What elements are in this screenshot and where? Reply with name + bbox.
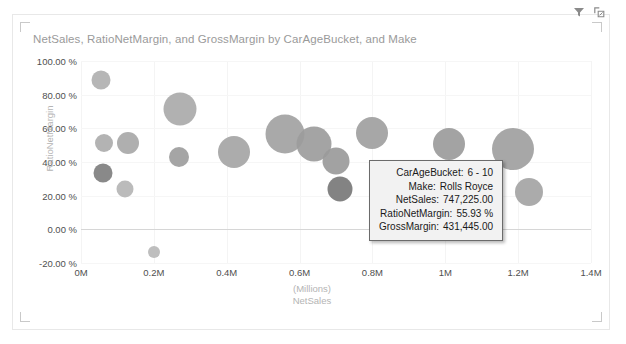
tooltip-row: GrossMargin:431,445.00 — [379, 220, 493, 234]
data-bubble[interactable] — [92, 71, 111, 90]
x-axis-tick-label: 1.4M — [580, 267, 601, 278]
data-bubble[interactable] — [117, 132, 139, 154]
y-axis-tick-label: 0.00 % — [47, 224, 77, 235]
tooltip-row: Make:Rolls Royce — [379, 180, 493, 194]
tooltip-row: NetSales:747,225.00 — [379, 193, 493, 207]
y-axis-tick-label: 100.00 % — [37, 56, 77, 67]
tooltip-value: 431,445.00 — [443, 220, 493, 234]
tooltip-label: RatioNetMargin: — [380, 207, 452, 221]
screenshot-root: NetSales, RatioNetMargin, and GrossMargi… — [0, 0, 626, 344]
zero-line — [81, 229, 591, 230]
tooltip-label: CarAgeBucket: — [396, 166, 463, 180]
x-axis-tick-label: 0.4M — [216, 267, 237, 278]
plot-frame: 100.00 %80.00 %60.00 %40.00 %20.00 %0.00… — [13, 15, 611, 331]
data-bubble[interactable] — [328, 177, 353, 202]
tooltip-value: 6 - 10 — [468, 166, 494, 180]
bubble-chart-visual[interactable]: NetSales, RatioNetMargin, and GrossMargi… — [12, 14, 610, 330]
tooltip-value: 747,225.00 — [443, 193, 493, 207]
visual-header-icons — [572, 5, 605, 18]
gridline-vertical — [591, 61, 592, 263]
gridline-horizontal — [81, 61, 591, 62]
data-bubble[interactable] — [515, 178, 543, 206]
plot-area[interactable] — [81, 61, 591, 263]
tooltip-value: 55.93 % — [456, 207, 493, 221]
gridline-horizontal — [81, 95, 591, 96]
gridline-horizontal — [81, 263, 591, 264]
data-bubble[interactable] — [164, 92, 197, 125]
data-bubble[interactable] — [169, 147, 189, 167]
x-axis-tick-label: 1M — [439, 267, 452, 278]
y-axis-tick-label: 20.00 % — [42, 190, 77, 201]
tooltip-label: GrossMargin: — [379, 220, 439, 234]
data-bubble[interactable] — [218, 136, 250, 168]
tooltip-label: Make: — [408, 180, 435, 194]
y-axis-tick-label: -20.00 % — [39, 258, 77, 269]
x-axis-tick-label: 0.6M — [289, 267, 310, 278]
data-bubble[interactable] — [148, 246, 160, 258]
x-axis-ticks: 0M0.2M0.4M0.6M0.8M1M1.2M1.4M — [81, 267, 591, 281]
x-axis-tick-label: 0M — [74, 267, 87, 278]
tooltip-label: NetSales: — [396, 193, 439, 207]
x-axis-title: (Millions) NetSales — [13, 283, 611, 306]
y-axis-title: RatioNetMargin — [44, 94, 55, 184]
x-axis-tick-label: 0.2M — [143, 267, 164, 278]
x-axis-unit: (Millions) — [13, 283, 611, 295]
x-axis-tick-label: 1.2M — [508, 267, 529, 278]
tooltip-row: RatioNetMargin:55.93 % — [379, 207, 493, 221]
x-axis-field: NetSales — [13, 295, 611, 307]
tooltip-row: CarAgeBucket:6 - 10 — [379, 166, 493, 180]
tooltip-value: Rolls Royce — [440, 180, 493, 194]
data-bubble[interactable] — [433, 128, 465, 160]
data-bubble[interactable] — [95, 134, 113, 152]
filter-icon[interactable] — [572, 5, 585, 18]
data-point-tooltip: CarAgeBucket:6 - 10Make:Rolls RoyceNetSa… — [369, 160, 503, 241]
data-bubble[interactable] — [356, 117, 388, 149]
data-bubble[interactable] — [116, 181, 133, 198]
data-bubble[interactable] — [93, 163, 112, 182]
focus-mode-icon[interactable] — [592, 5, 605, 18]
data-bubble[interactable] — [323, 148, 350, 175]
x-axis-tick-label: 0.8M — [362, 267, 383, 278]
